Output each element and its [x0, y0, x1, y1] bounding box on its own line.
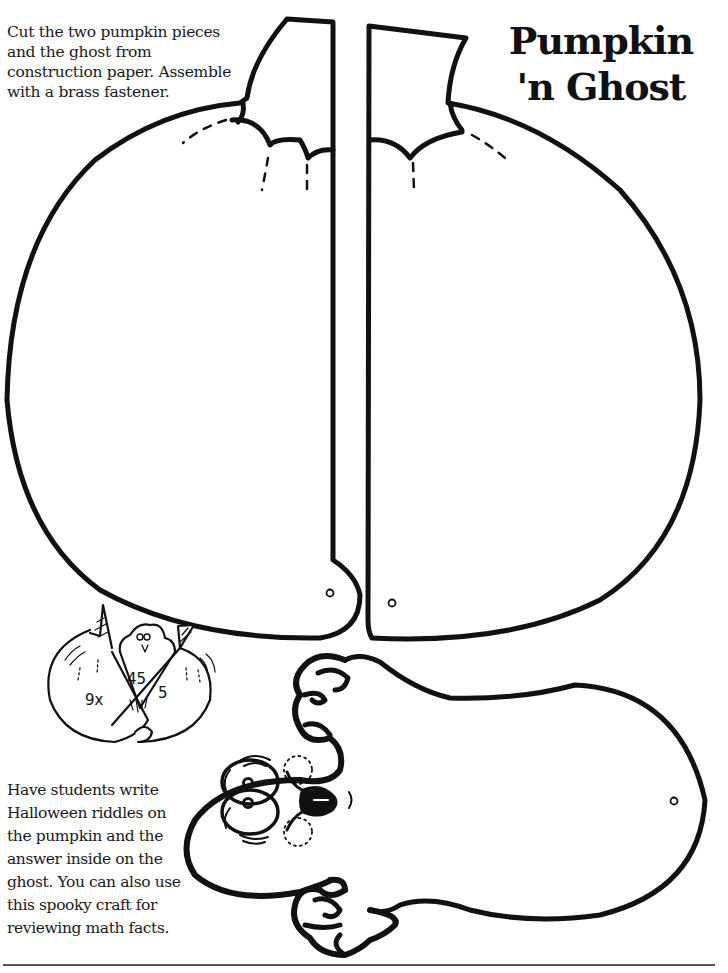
example-ghost-label: 45	[127, 670, 146, 688]
title-line-1: Pumpkin	[486, 18, 716, 64]
title-line-2: 'n Ghost	[486, 64, 716, 110]
left-pumpkin-half	[7, 19, 360, 638]
bottom-divider	[3, 964, 715, 966]
craft-worksheet-page: 9x 45 5 Cut the two pumpkin pieces and t…	[0, 0, 728, 973]
ghost-cutout	[187, 656, 706, 955]
page-title: Pumpkin 'n Ghost	[486, 18, 716, 110]
example-right-label: 5	[158, 684, 168, 702]
example-left-label: 9x	[85, 691, 104, 709]
cutting-instructions: Cut the two pumpkin pieces and the ghost…	[7, 22, 247, 102]
teacher-notes: Have students write Halloween riddles on…	[7, 779, 182, 940]
right-pumpkin-half	[368, 26, 700, 639]
